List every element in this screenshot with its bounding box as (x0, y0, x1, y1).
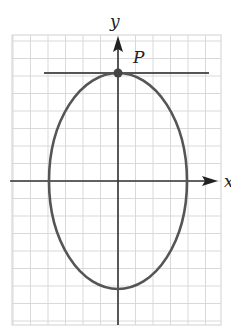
y-axis-label: y (109, 11, 120, 31)
point-p (114, 69, 123, 78)
ellipse-diagram: x y P (0, 0, 231, 331)
point-p-label: P (132, 47, 145, 67)
x-axis-label: x (224, 171, 231, 191)
grid (12, 35, 221, 325)
